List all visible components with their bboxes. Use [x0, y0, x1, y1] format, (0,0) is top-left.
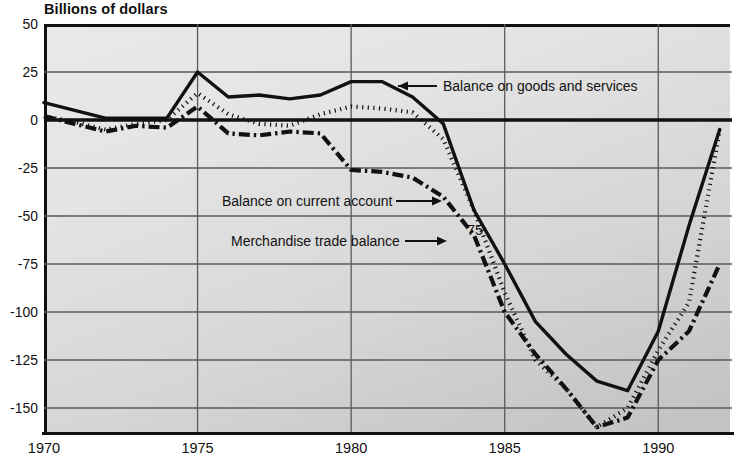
series-layer [44, 72, 720, 427]
series-line-dash-dot [44, 107, 720, 428]
annotation-merchandise-trade-balance: Merchandise trade balance [231, 234, 400, 248]
stray-mark-75: 75 [467, 222, 483, 238]
annotation-balance-goods-services: Balance on goods and services [443, 79, 638, 93]
annotation-balance-current-account: Balance on current account [222, 194, 392, 208]
chart-figure: Billions of dollars 50250-25-50-75-100-1… [0, 0, 738, 467]
series-line-dotted [44, 93, 720, 427]
